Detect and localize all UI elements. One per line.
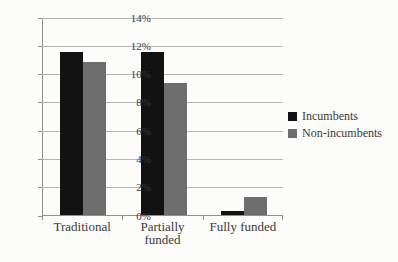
gridline (42, 46, 283, 47)
y-axis-tick-label: 4% (111, 154, 151, 165)
y-axis-tick (38, 131, 42, 132)
non-incumbents-swatch-icon (288, 129, 297, 138)
incumbents-swatch-icon (288, 112, 297, 121)
bar-non-incumbents-fully-funded (244, 197, 267, 215)
y-axis-tick (38, 159, 42, 160)
y-axis-tick-label: 12% (111, 41, 151, 52)
bar-incumbents-fully-funded (221, 211, 244, 215)
x-axis-line (42, 215, 283, 216)
y-axis-tick (38, 46, 42, 47)
legend-label-incumbents: Incumbents (302, 110, 358, 122)
gridline (42, 18, 283, 19)
bar-non-incumbents-partially-funded (164, 83, 187, 215)
x-axis-category-label: Fully funded (206, 221, 280, 234)
x-axis-tick (282, 216, 283, 220)
plot-area (42, 18, 283, 216)
x-axis-category-label: Partially funded (126, 221, 200, 246)
x-axis-tick (42, 216, 43, 220)
y-axis-tick-label: 10% (111, 69, 151, 80)
y-axis-tick (38, 102, 42, 103)
legend: Incumbents Non-incumbents (288, 110, 382, 144)
y-axis-tick-label: 6% (111, 126, 151, 137)
y-axis-tick-label: 2% (111, 182, 151, 193)
x-axis-category-label: Traditional (45, 221, 119, 234)
x-axis-tick (203, 216, 204, 220)
bar-incumbents-traditional (60, 52, 83, 215)
y-axis-tick-label: 8% (111, 97, 151, 108)
y-axis-tick-label: 14% (111, 13, 151, 24)
legend-item-non-incumbents: Non-incumbents (288, 127, 382, 139)
y-axis-tick (38, 74, 42, 75)
y-axis-tick (38, 18, 42, 19)
bar-chart: Incumbents Non-incumbents 0%2%4%6%8%10%1… (0, 0, 398, 262)
y-axis-tick (38, 187, 42, 188)
legend-label-non-incumbents: Non-incumbents (302, 127, 382, 139)
legend-item-incumbents: Incumbents (288, 110, 382, 122)
bar-non-incumbents-traditional (83, 62, 106, 215)
